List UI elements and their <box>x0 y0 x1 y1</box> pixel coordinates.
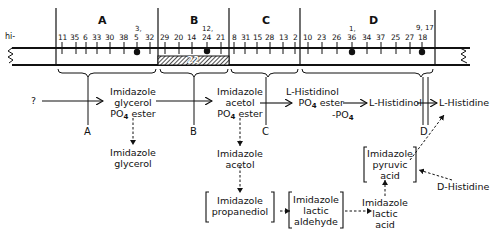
node-line: PO4 ester <box>216 108 264 123</box>
mutant-label: 33 <box>92 33 101 42</box>
node-imidazole-lactic-aldehyde: Imidazole lactic aldehyde <box>292 194 340 227</box>
mutant-label: 36 <box>347 33 356 42</box>
mutant-label: 10 <box>303 33 312 42</box>
deletion-22-label: 22 <box>187 55 200 65</box>
node-line: Imidazole <box>292 194 340 205</box>
mutant-label: 21 <box>216 33 225 42</box>
node-line: aldehyde <box>292 216 340 227</box>
marker-label-b: 12, <box>202 25 213 33</box>
gene-label-d: D <box>420 126 428 137</box>
gene-label-a: A <box>84 126 91 137</box>
mutant-label: 13 <box>279 33 288 42</box>
gene-label-b: B <box>190 126 197 137</box>
node-imidazole-lactic-acid: Imidazole lactic acid <box>362 197 408 230</box>
mutant-label: 32 <box>145 33 154 42</box>
mutant-label: 35 <box>70 33 79 42</box>
node-line: lactic <box>292 205 340 216</box>
node-line: acetol <box>216 97 264 108</box>
section-label-b: B <box>190 14 198 27</box>
node-d-histidine: D-Histidine <box>437 181 489 192</box>
pathway-start-unknown: ? <box>31 95 36 106</box>
marker-label-a: 3, <box>135 25 142 33</box>
node-line: Imidazole <box>110 147 156 158</box>
node-imidazole-acetol-po4-ester: Imidazole acetol PO4 ester <box>216 86 264 123</box>
node-line: L-Histidinol <box>286 86 346 97</box>
node-l-histidinol: L-Histidinol <box>369 97 422 108</box>
node-line: glycerol <box>110 158 156 169</box>
mutant-label: 2 <box>293 33 298 42</box>
mutant-label: 24 <box>202 33 211 42</box>
node-imidazole-glycerol: Imidazole glycerol <box>110 147 156 169</box>
node-line: pyruvic <box>367 159 413 170</box>
mutant-label: 34 <box>362 33 371 42</box>
mutant-label: 23 <box>317 33 326 42</box>
dephosphorylation-label: -PO4 <box>332 109 354 124</box>
mutant-label: 11 <box>58 33 67 42</box>
node-line: acid <box>362 219 408 230</box>
mutant-label: 20 <box>174 33 183 42</box>
mutant-label: 25 <box>391 33 400 42</box>
mutant-label: 37 <box>376 33 385 42</box>
mutant-label: 5 <box>134 33 139 42</box>
mutant-label: 28 <box>265 33 274 42</box>
node-line: lactic <box>362 208 408 219</box>
node-line: acetol <box>217 159 263 170</box>
gene-label-c: C <box>262 126 269 137</box>
node-line: Imidazole <box>109 86 157 97</box>
node-imidazole-propanediol: Imidazole propanediol <box>209 195 271 217</box>
node-line: Imidazole <box>209 195 271 206</box>
mutant-label: 38 <box>119 33 128 42</box>
marker-label-d1: 1, <box>349 25 356 33</box>
mutant-label: 30 <box>105 33 114 42</box>
mutant-label: 27 <box>405 33 414 42</box>
marker-label-d2: 9, 17 <box>416 24 434 32</box>
node-line: Imidazole <box>367 148 413 159</box>
node-line: propanediol <box>209 206 271 217</box>
node-line: PO4 ester <box>109 108 157 123</box>
mutant-label: 26 <box>332 33 341 42</box>
mutant-label: 14 <box>187 33 196 42</box>
node-line: Imidazole <box>362 197 408 208</box>
node-line: glycerol <box>109 97 157 108</box>
mutant-label: 6 <box>83 33 88 42</box>
map-prefix-label: hi- <box>5 32 15 41</box>
node-imidazole-acetol: Imidazole acetol <box>217 148 263 170</box>
mutant-label: 8 <box>232 33 237 42</box>
mutant-label: 18 <box>418 33 427 42</box>
node-imidazole-pyruvic-acid: Imidazole pyruvic acid <box>367 148 413 181</box>
section-label-d: D <box>369 14 378 27</box>
mutant-label: 15 <box>253 33 262 42</box>
mutant-label: 31 <box>241 33 250 42</box>
node-imidazole-glycerol-po4-ester: Imidazole glycerol PO4 ester <box>109 86 157 123</box>
node-l-histidine: L-Histidine <box>439 97 489 108</box>
node-line: acid <box>367 170 413 181</box>
section-label-c: C <box>262 14 270 27</box>
node-line: Imidazole <box>216 86 264 97</box>
node-line: Imidazole <box>217 148 263 159</box>
section-label-a: A <box>98 14 107 27</box>
mutant-label: 29 <box>160 33 169 42</box>
